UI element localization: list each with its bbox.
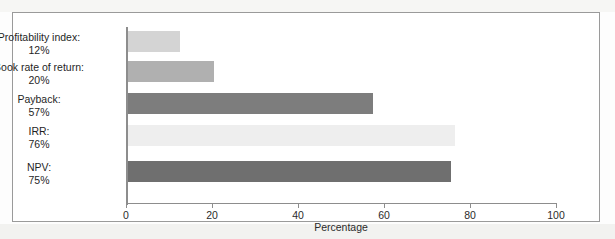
x-tick-80 [470,203,471,208]
x-tick-label-80: 80 [464,209,476,221]
scan-top-band [0,0,615,12]
category-label: Book rate of return:20% [0,61,119,86]
x-tick-20 [212,203,213,208]
category-value: 57% [0,106,119,119]
x-tick-40 [298,203,299,208]
x-tick-label-20: 20 [206,209,218,221]
category-value: 20% [0,74,119,87]
x-axis-title: Percentage [13,221,601,233]
x-tick-100 [556,203,557,208]
category-label: IRR:76% [0,125,119,150]
x-axis-title-label: Percentage [314,221,368,233]
x-tick-60 [384,203,385,208]
category-name: Payback: [0,93,119,106]
x-tick-label-60: 60 [378,209,390,221]
category-value: 75% [0,174,119,187]
category-name: Profitability index: [0,31,119,44]
category-label: NPV:75% [0,161,119,186]
x-tick-0 [126,203,127,208]
category-name: Book rate of return: [0,61,119,74]
x-tick-label-0: 0 [123,209,129,221]
bar [128,61,214,82]
category-name: IRR: [0,125,119,138]
category-value: 76% [0,138,119,151]
x-axis-line [126,203,556,204]
bar [128,161,451,182]
bar [128,93,373,114]
x-tick-label-40: 40 [292,209,304,221]
category-label: Profitability index:12% [0,31,119,56]
x-tick-label-100: 100 [547,209,565,221]
figure-frame: 020406080100 Profitability index:12%Book… [12,12,600,222]
category-label: Payback:57% [0,93,119,118]
category-name: NPV: [0,161,119,174]
category-value: 12% [0,44,119,57]
bar-chart: 020406080100 Profitability index:12%Book… [13,13,601,223]
bar [128,125,455,146]
bar [128,31,180,52]
